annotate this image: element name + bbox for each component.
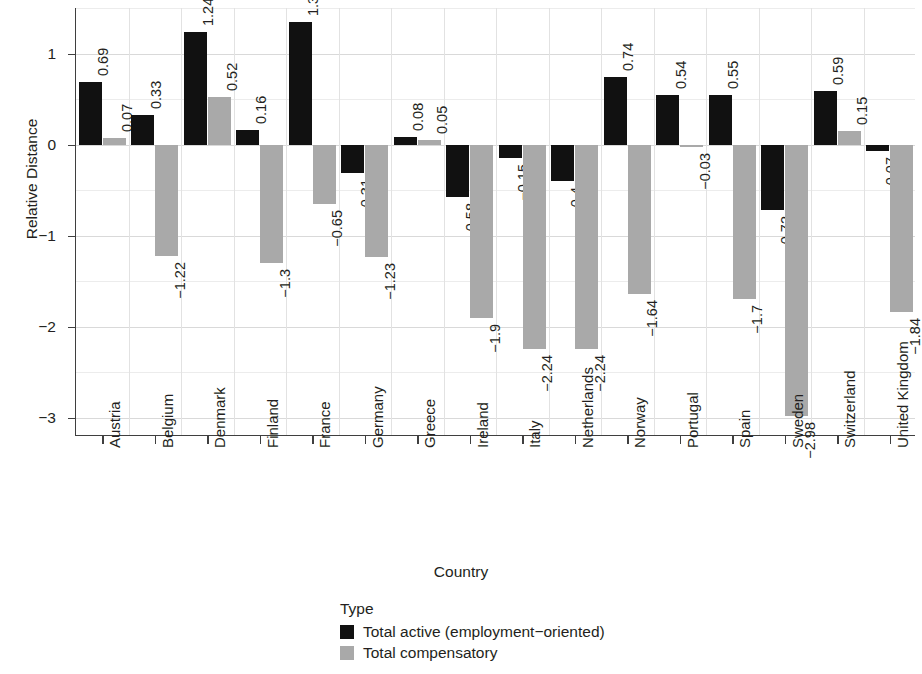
x-axis-category-label: France — [317, 401, 332, 448]
bar-active — [236, 130, 259, 145]
x-axis-tick — [575, 435, 577, 444]
bar-active — [761, 145, 784, 211]
y-axis-tick — [68, 54, 76, 56]
gridline-vertical — [286, 8, 287, 435]
bar-comp — [103, 138, 126, 144]
chart-legend: Type Total active (employment−oriented)T… — [340, 600, 605, 665]
bar-comp — [208, 97, 231, 144]
x-axis-category-label: Netherlands — [580, 367, 595, 448]
bar-active — [131, 115, 154, 145]
bar-value-label: −2.24 — [540, 355, 555, 392]
bar-value-label: −1.22 — [173, 262, 188, 299]
x-axis-category-label: United Kingdom — [895, 341, 910, 448]
bar-value-label: 0.15 — [855, 97, 870, 125]
x-axis-category-label: Austria — [107, 401, 122, 448]
bar-active — [341, 145, 364, 173]
bar-active — [656, 95, 679, 144]
bar-comp — [418, 140, 441, 145]
bar-comp — [523, 145, 546, 349]
x-axis-tick — [680, 435, 682, 444]
gridline-vertical — [654, 8, 655, 435]
bar-value-label: 0.69 — [96, 48, 111, 76]
x-axis-category-label: Norway — [632, 397, 647, 448]
legend-title: Type — [340, 600, 605, 618]
y-axis-tick-label: −3 — [22, 410, 56, 426]
bar-value-label: 0.55 — [726, 60, 741, 88]
legend-item-label: Total compensatory — [363, 644, 497, 662]
bar-active — [709, 95, 732, 145]
bar-value-label: −0.03 — [698, 153, 713, 190]
x-axis-title: Country — [0, 563, 922, 581]
gridline-vertical — [811, 8, 812, 435]
gridline-vertical — [864, 8, 865, 435]
bar-value-label: 1.24 — [201, 0, 216, 26]
x-axis-tick — [312, 435, 314, 444]
x-axis-category-label: Spain — [737, 410, 752, 448]
bar-active — [446, 145, 469, 198]
x-axis-tick — [155, 435, 157, 444]
x-axis-category-label: Greece — [422, 399, 437, 448]
x-axis-tick — [785, 435, 787, 444]
x-axis-tick — [417, 435, 419, 444]
x-axis-tick — [207, 435, 209, 444]
x-axis-tick — [102, 435, 104, 444]
bar-active — [866, 145, 889, 151]
y-axis-title: Relative Distance — [23, 79, 41, 279]
bar-value-label: −1.7 — [750, 305, 765, 334]
bar-chart: Relative Distance 0.690.070.33−1.221.240… — [0, 0, 922, 674]
legend-swatch-icon — [340, 646, 354, 660]
gridline-vertical — [706, 8, 707, 435]
bar-active — [289, 22, 312, 145]
x-axis-category-label: Switzerland — [842, 370, 857, 448]
plot-panel: 0.690.070.33−1.221.240.520.16−1.31.35−0.… — [75, 8, 915, 436]
legend-item-label: Total active (employment−oriented) — [363, 623, 605, 641]
bar-value-label: 0.52 — [225, 63, 240, 91]
bar-value-label: 0.08 — [411, 103, 426, 131]
bar-comp — [628, 145, 651, 294]
y-axis-tick-label: −1 — [22, 228, 56, 244]
x-axis-category-label: Belgium — [160, 394, 175, 448]
y-axis-tick-label: 1 — [22, 46, 56, 62]
bar-comp — [470, 145, 493, 318]
legend-item: Total compensatory — [340, 644, 605, 662]
bar-active — [79, 82, 102, 145]
gridline-vertical — [129, 8, 130, 435]
y-axis-tick — [68, 327, 76, 329]
bar-value-label: −1.64 — [645, 300, 660, 337]
bar-active — [604, 77, 627, 144]
y-axis-tick-label: 0 — [22, 137, 56, 153]
bar-active — [499, 145, 522, 159]
bar-active — [394, 137, 417, 144]
bar-comp — [313, 145, 336, 204]
bar-value-label: 0.33 — [149, 80, 164, 108]
bar-comp — [260, 145, 283, 263]
bar-comp — [680, 145, 703, 148]
bar-comp — [155, 145, 178, 256]
bar-active — [814, 91, 837, 145]
bar-active — [184, 32, 207, 145]
bar-comp — [365, 145, 388, 257]
x-axis-tick — [837, 435, 839, 444]
x-axis-tick — [732, 435, 734, 444]
bar-active — [551, 145, 574, 181]
bar-value-label: 0.54 — [674, 61, 689, 89]
gridline-vertical — [444, 8, 445, 435]
gridline-vertical — [181, 8, 182, 435]
bar-value-label: 0.05 — [435, 106, 450, 134]
x-axis-category-label: Portugal — [685, 392, 700, 448]
gridline-vertical — [391, 8, 392, 435]
legend-swatch-icon — [340, 625, 354, 639]
y-axis-tick — [68, 145, 76, 147]
bar-comp — [733, 145, 756, 300]
bar-value-label: 1.35 — [306, 0, 321, 16]
gridline-vertical — [496, 8, 497, 435]
bar-value-label: 0.16 — [254, 96, 269, 124]
x-axis-category-label: Germany — [370, 386, 385, 448]
bar-value-label: −1.23 — [383, 263, 398, 300]
bar-value-label: 0.59 — [831, 57, 846, 85]
x-axis-tick — [890, 435, 892, 444]
bar-value-label: −0.65 — [330, 210, 345, 247]
x-axis-tick — [365, 435, 367, 444]
legend-item: Total active (employment−oriented) — [340, 623, 605, 641]
x-axis-category-label: Sweden — [790, 394, 805, 448]
